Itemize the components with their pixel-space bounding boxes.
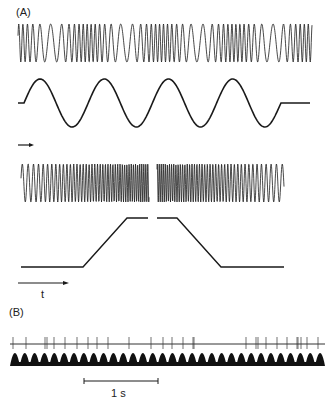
frequency-sweep-trace <box>21 164 284 202</box>
sine-modulator-trace <box>18 79 310 127</box>
trapezoid-envelope-right <box>157 218 284 267</box>
spike-train-trace <box>10 337 325 349</box>
figure-canvas <box>0 0 331 403</box>
scale-bar <box>84 378 158 384</box>
stimulus-envelope-trace <box>10 353 325 366</box>
trapezoid-envelope-left <box>21 218 148 267</box>
time-arrow-icon <box>18 281 69 285</box>
small-arrow-icon <box>18 143 34 147</box>
fm-tone-trace <box>18 24 312 62</box>
